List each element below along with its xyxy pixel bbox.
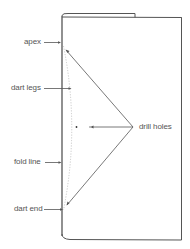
dart-legs-dotted xyxy=(64,46,72,210)
drill-hole-1 xyxy=(76,126,78,128)
label-dart-legs: dart legs xyxy=(11,83,41,93)
arrowheads xyxy=(66,50,94,206)
label-apex: apex xyxy=(24,37,41,47)
bottom-edge xyxy=(62,234,182,240)
label-drill-holes: drill holes xyxy=(139,122,172,132)
top-edge xyxy=(62,17,182,28)
label-leaders xyxy=(44,43,70,210)
label-fold-line: fold line xyxy=(14,157,41,167)
drill-hole-2 xyxy=(89,126,90,127)
label-arrowheads xyxy=(58,41,72,211)
label-dart-end: dart end xyxy=(14,204,43,214)
